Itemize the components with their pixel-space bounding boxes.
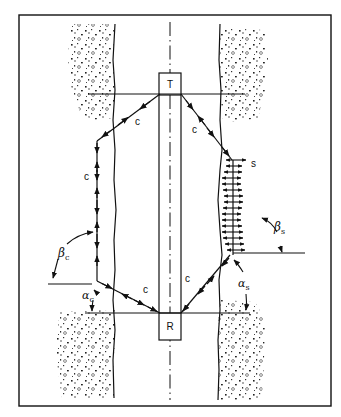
ray-label-c-left-vertical: c	[84, 171, 89, 182]
formation-upper-left	[68, 24, 115, 120]
compressional-ray-left	[97, 94, 160, 313]
shear-wave-particle-motion	[222, 160, 246, 255]
angle-label-beta-s: βs	[273, 220, 285, 236]
formation-lower-left	[56, 310, 115, 398]
angle-label-alpha-s: αs	[238, 277, 250, 292]
angle-label-alpha-c: αc	[82, 289, 94, 304]
transmitter-label: T	[167, 79, 173, 90]
beta-s-angle-arc-lower	[280, 246, 282, 252]
alpha-c-angle-arc	[94, 290, 96, 292]
ray-label-c-right-upper: c	[192, 124, 197, 135]
ray-label-s: s	[251, 158, 256, 169]
angle-label-beta-c: βc	[57, 246, 70, 262]
formation-upper-right	[219, 28, 268, 122]
borehole-diagram: T R	[0, 0, 341, 417]
beta-c-angle-arc	[67, 232, 93, 244]
ray-label-c-right-lower: c	[185, 273, 190, 284]
ray-label-c-left-upper: c	[135, 116, 140, 127]
ray-label-c-left-lower: c	[143, 284, 148, 295]
receiver-label: R	[166, 321, 173, 332]
formation-lower-right	[218, 300, 265, 400]
alpha-s-angle-arc	[234, 260, 243, 272]
alpha-s-angle-arc-lower	[246, 294, 247, 310]
beta-c-angle-arc-lower	[53, 259, 58, 278]
